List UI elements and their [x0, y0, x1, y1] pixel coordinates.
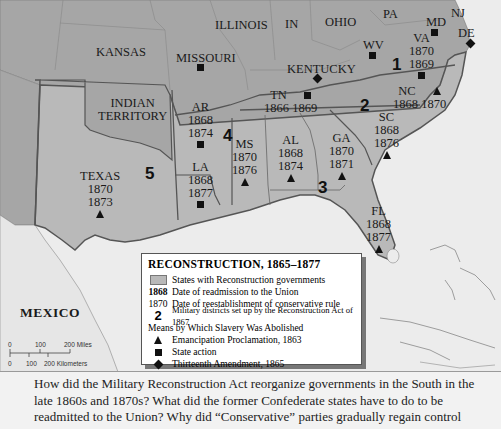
state-georgia: GA 1870 1871 [329, 132, 354, 180]
label-maryland: MD [426, 16, 446, 29]
state-abbr: VA [413, 31, 429, 45]
label-kentucky: KENTUCKY [287, 63, 356, 76]
indian-territory-line2: TERRITORY [98, 109, 167, 123]
conservative-year: 1869 [409, 57, 434, 71]
legend-row-thirteenth: Thirteenth Amendment, 1865 [148, 358, 355, 370]
legend-row-military-district: 2 Military districts set up by the Recon… [148, 310, 355, 322]
state-abbr: TN [270, 88, 287, 102]
readmission-year: 1868 [188, 173, 213, 187]
scale-miles-0: 0 [8, 341, 12, 348]
legend-row-state-action: State action [148, 346, 355, 358]
state-virginia: VA 1870 1869 [409, 32, 434, 79]
emancipation-icon [96, 210, 104, 218]
readmission-year: 1870 [88, 182, 113, 196]
diamond-icon [153, 359, 163, 369]
state-action-icon-missouri [197, 64, 204, 71]
label-indian-territory: INDIAN TERRITORY [98, 97, 167, 123]
military-district-3: 3 [318, 178, 327, 198]
state-mississippi: MS 1870 1876 [232, 138, 257, 186]
conservative-year: 1869 [292, 101, 317, 115]
map-caption: How did the Military Reconstruction Act … [34, 376, 494, 426]
state-abbr: FL [371, 204, 386, 218]
indian-territory-line1: INDIAN [110, 96, 154, 110]
state-south-carolina: SC 1868 1876 [374, 111, 399, 159]
military-district-4: 4 [223, 126, 232, 146]
scale-km-100: 100 [26, 360, 37, 367]
readmission-year: 1870 [329, 144, 354, 158]
conservative-year: 1873 [88, 195, 113, 209]
label-pennsylvania: PA [383, 8, 398, 21]
state-abbr: MS [235, 137, 253, 151]
state-action-icon [418, 72, 425, 79]
conservative-year: 1877 [188, 186, 213, 200]
military-district-2: 2 [360, 96, 369, 116]
label-mexico: MEXICO [20, 306, 80, 319]
label-missouri: MISSOURI [176, 52, 236, 65]
scale-bar: 0 100 200 Miles 0 100 200 Kilometers [6, 340, 96, 370]
readmission-year: 1868 [374, 123, 399, 137]
conservative-year: 1870 [421, 97, 446, 111]
triangle-icon [154, 336, 162, 344]
state-alabama: AL 1868 1874 [278, 134, 303, 182]
label-new-jersey: NJ [451, 7, 465, 20]
conservative-year: 1877 [366, 230, 391, 244]
emancipation-icon [338, 172, 346, 180]
reconstruction-map: ILLINOIS IN OHIO PA NJ MD DE KANSAS MISS… [0, 0, 501, 372]
scale-km-0: 0 [8, 360, 12, 367]
readmission-year: 1868 [188, 113, 213, 127]
military-district-1: 1 [392, 55, 401, 75]
gray-swatch-icon [150, 275, 167, 285]
legend-text: Emancipation Proclamation, 1863 [168, 334, 302, 346]
label-illinois: ILLINOIS [215, 19, 268, 32]
legend-text: Thirteenth Amendment, 1865 [168, 358, 284, 370]
state-abbr: AR [192, 100, 209, 114]
legend-text: Date of readmission to the Union [168, 286, 298, 298]
legend-row-reconstruction: States with Reconstruction governments [148, 274, 355, 286]
emancipation-icon [383, 151, 391, 159]
state-texas: TEXAS 1870 1873 [80, 170, 120, 218]
emancipation-icon [287, 174, 295, 182]
state-abbr: AL [282, 133, 299, 147]
legend-text: States with Reconstruction governments [168, 274, 325, 286]
legend-key: 1868 [148, 286, 168, 298]
readmission-year: 1866 [264, 101, 289, 115]
scale-miles-200: 200 Miles [64, 341, 92, 348]
scale-miles-100: 100 [35, 341, 46, 348]
conservative-year: 1874 [278, 159, 303, 173]
legend-key: 2 [148, 310, 168, 322]
square-icon [155, 349, 162, 356]
readmission-year: 1870 [232, 150, 257, 164]
readmission-year: 1868 [278, 146, 303, 160]
scale-km-200: 200 Kilometers [44, 360, 87, 367]
state-abbr: NC [398, 84, 415, 98]
state-abbr: SC [379, 110, 394, 124]
label-ohio: OHIO [325, 16, 356, 29]
readmission-year: 1870 [409, 44, 434, 58]
state-action-icon [197, 201, 204, 208]
emancipation-icon [241, 178, 249, 186]
state-arkansas: AR 1868 1874 [188, 101, 213, 148]
conservative-year: 1876 [232, 163, 257, 177]
state-north-carolina: NC 1868 1870 [393, 85, 446, 111]
map-legend: RECONSTRUCTION, 1865–1877 States with Re… [141, 253, 362, 365]
label-kansas: KANSAS [96, 46, 146, 59]
conservative-year: 1876 [374, 136, 399, 150]
label-indiana: IN [285, 18, 298, 31]
emancipation-icon [375, 245, 383, 253]
label-delaware: DE [458, 27, 475, 40]
legend-row-readmission: 1868 Date of readmission to the Union [148, 286, 355, 298]
legend-row-emancipation: Emancipation Proclamation, 1863 [148, 334, 355, 346]
state-abbr: TEXAS [80, 169, 120, 183]
state-louisiana: LA 1868 1877 [188, 161, 213, 208]
state-action-icon-west-virginia [369, 52, 376, 59]
label-west-virginia: WV [363, 39, 384, 52]
conservative-year: 1874 [188, 126, 213, 140]
emancipation-icon [433, 87, 441, 95]
state-action-icon [304, 92, 311, 99]
military-district-5: 5 [145, 164, 154, 184]
readmission-year: 1868 [393, 97, 418, 111]
readmission-year: 1868 [366, 217, 391, 231]
state-abbr: GA [332, 131, 350, 145]
state-action-icon [197, 141, 204, 148]
legend-text: State action [168, 346, 217, 358]
